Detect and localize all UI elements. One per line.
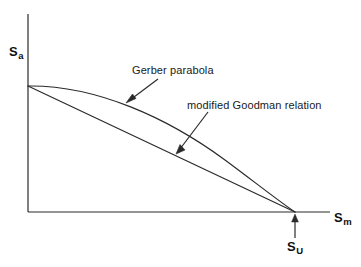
y-axis-label-subscript: a <box>18 50 23 61</box>
ultimate-strength-label: SU <box>287 239 303 254</box>
x-axis-label-subscript: m <box>343 216 351 227</box>
su-pointer-arrow <box>292 214 299 238</box>
y-axis-label: Sa <box>9 44 23 59</box>
ultimate-strength-label-subscript: U <box>296 245 303 256</box>
goodman-leader-arrow <box>176 112 208 154</box>
gerber-leader-arrow <box>126 79 158 103</box>
gerber-parabola-annotation: Gerber parabola <box>132 64 214 76</box>
goodman-relation-annotation: modified Goodman relation <box>187 99 322 111</box>
x-axis-label-main: S <box>334 210 343 225</box>
x-axis-label: Sm <box>334 210 351 225</box>
ultimate-strength-label-main: S <box>287 239 296 254</box>
y-axis-label-main: S <box>9 44 18 59</box>
fatigue-diagram-figure: Sa Sm SU Gerber parabola modified Goodma… <box>0 0 361 267</box>
diagram-canvas <box>0 0 361 267</box>
